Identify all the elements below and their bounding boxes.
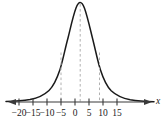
plot-canvas <box>0 0 167 122</box>
x-tick-label--10: −10 <box>40 109 55 119</box>
x-tick-label--15: −15 <box>26 109 41 119</box>
axis-arrow-right-icon <box>144 99 152 105</box>
x-tick-label-10: 10 <box>98 109 108 119</box>
x-tick-label-5: 5 <box>87 109 92 119</box>
x-tick-label--5: −5 <box>56 109 66 119</box>
x-tick-label-15: 15 <box>112 109 122 119</box>
x-tick-label--20: −20 <box>12 109 27 119</box>
bell-curve-figure: −20 −15 −10 −5 0 5 10 15 x <box>0 0 167 122</box>
bell-curve-path <box>6 3 154 102</box>
x-tick-label-0: 0 <box>73 109 78 119</box>
axis-arrow-left-icon <box>8 99 16 105</box>
x-axis-name-label: x <box>156 97 160 107</box>
